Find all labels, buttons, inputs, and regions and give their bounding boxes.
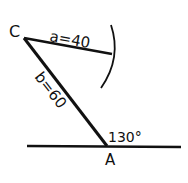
side-b-line	[24, 38, 107, 146]
label-angle: 130°	[108, 129, 142, 145]
arc	[101, 25, 115, 88]
triangle-construction-diagram: C a=40 b=60 130° A	[0, 0, 188, 183]
label-side-a: a=40	[48, 27, 91, 52]
label-point-a: A	[105, 151, 116, 169]
baseline	[27, 146, 181, 147]
label-point-c: C	[9, 22, 20, 41]
